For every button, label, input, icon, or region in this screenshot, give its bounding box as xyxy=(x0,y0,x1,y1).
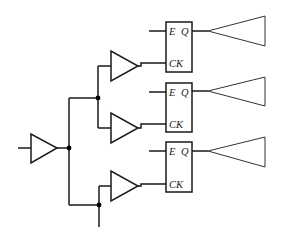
ff2-enable-pin-label: E xyxy=(168,87,176,98)
branch-buffer-2-to-ck-wire xyxy=(138,124,166,128)
junction-dot-root xyxy=(67,146,72,151)
buffer-triangle-icon xyxy=(31,134,57,163)
junction-dot-upper xyxy=(96,96,101,101)
flip-flop-2: E Q CK xyxy=(149,77,265,132)
output-load-buffer-1-triangle-icon xyxy=(208,16,265,46)
flip-flop-3: E Q CK xyxy=(149,137,265,192)
ff1-clock-pin-label: CK xyxy=(169,58,184,69)
clock-tree-diagram: E Q CK E Q CK E Q CK xyxy=(0,0,283,242)
clock-trunk xyxy=(67,98,99,205)
output-load-buffer-3-triangle-icon xyxy=(208,137,265,167)
branch-buffer-3-to-ck-wire xyxy=(138,184,166,186)
ff2-output-pin-label: Q xyxy=(181,87,189,98)
root-clock-buffer xyxy=(18,134,69,163)
junction-dot-lower xyxy=(97,203,102,208)
lower-branch xyxy=(97,171,166,227)
ff3-clock-pin-label: CK xyxy=(169,179,184,190)
ff2-clock-pin-label: CK xyxy=(169,119,184,130)
flip-flop-1: E Q CK xyxy=(149,16,265,72)
branch-buffer-2-triangle-icon xyxy=(111,113,138,143)
output-load-buffer-2-triangle-icon xyxy=(208,77,265,106)
branch-buffer-3-triangle-icon xyxy=(111,171,138,201)
branch-buffer-1-to-ck-wire xyxy=(138,63,166,66)
ff3-output-pin-label: Q xyxy=(181,146,189,157)
ff1-output-pin-label: Q xyxy=(181,26,189,37)
ff3-enable-pin-label: E xyxy=(168,146,176,157)
upper-branch xyxy=(96,51,166,143)
branch-buffer-1-triangle-icon xyxy=(111,51,138,81)
ff1-enable-pin-label: E xyxy=(168,26,176,37)
